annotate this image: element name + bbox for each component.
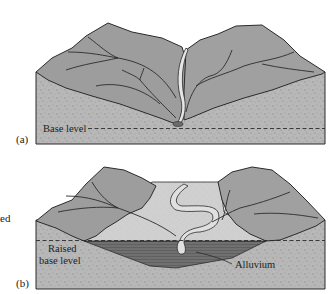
panel-b: Raised base level Alluvium (b) xyxy=(16,167,325,290)
panel-a-label: (a) xyxy=(16,133,29,146)
river-mouth-a xyxy=(173,122,183,127)
panel-b-label: (b) xyxy=(16,277,29,290)
panel-a: Base level (a) xyxy=(16,23,325,146)
alluvium-label: Alluvium xyxy=(235,259,275,270)
base-level-label: Base level xyxy=(43,123,87,134)
raised-label-line2: base level xyxy=(39,255,81,266)
raised-label-line1: Raised xyxy=(48,243,77,254)
diagram-canvas: Base level (a) xyxy=(0,0,335,294)
cropped-side-text: ed xyxy=(0,212,11,224)
landscape-figure: Base level (a) xyxy=(0,0,335,294)
